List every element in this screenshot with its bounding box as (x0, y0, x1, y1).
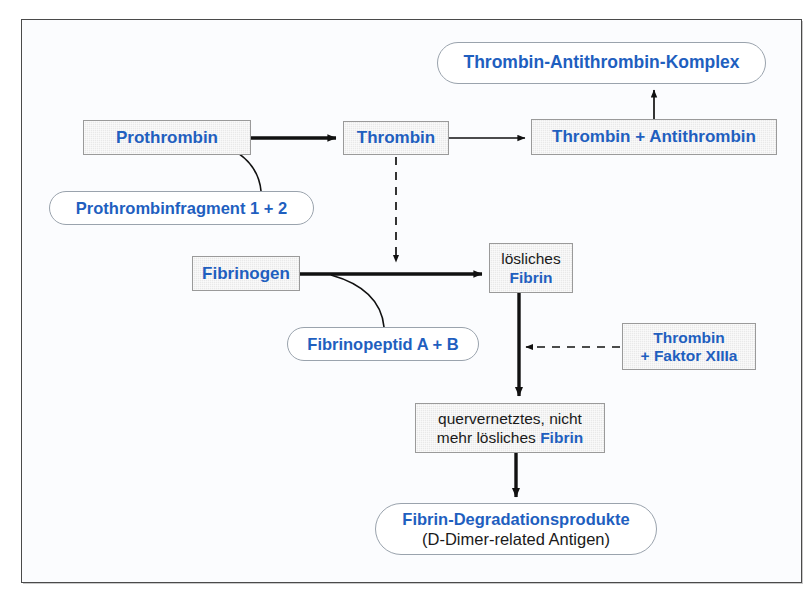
node-thrombin[interactable]: Thrombin (343, 121, 449, 155)
node-fibrinopeptid-label: Fibrinopeptid A + B (307, 335, 458, 353)
node-fdp-line2: (D-Dimer-related Antigen) (422, 530, 610, 548)
node-prothrombinfragment[interactable]: Prothrombinfragment 1 + 2 (49, 191, 314, 225)
diagram-canvas: Prothrombin Thrombin Thrombin + Antithro… (0, 0, 812, 601)
node-tat-komplex-label: Thrombin-Antithrombin-Komplex (463, 53, 739, 73)
node-fibrinogen[interactable]: Fibrinogen (192, 256, 300, 291)
node-thrombin-label: Thrombin (357, 128, 435, 147)
diagram-frame (21, 19, 802, 583)
node-fibrin-degradationsprodukte[interactable]: Fibrin-Degradationsprodukte (D-Dimer-rel… (375, 503, 657, 555)
node-fibrinopeptid[interactable]: Fibrinopeptid A + B (287, 327, 479, 361)
node-quervernetztes-fibrin-line2b: Fibrin (540, 429, 583, 446)
node-thrombin-antithrombin[interactable]: Thrombin + Antithrombin (531, 119, 777, 155)
node-thrombin-antithrombin-label: Thrombin + Antithrombin (552, 127, 756, 146)
node-fdp-line1: Fibrin-Degradationsprodukte (402, 510, 629, 528)
node-thrombin-antithrombin-komplex[interactable]: Thrombin-Antithrombin-Komplex (437, 42, 766, 84)
node-prothrombin-label: Prothrombin (116, 128, 218, 147)
node-prothrombinfragment-label: Prothrombinfragment 1 + 2 (76, 199, 287, 217)
node-loesliches-fibrin-line2: Fibrin (509, 269, 552, 286)
node-thrombin-faktor-xiiia-line2: + Faktor XIIIa (641, 347, 738, 364)
node-thrombin-faktor-xiiia-line1: Thrombin (653, 329, 724, 346)
node-quervernetztes-fibrin-line2: mehr lösliches Fibrin (437, 429, 583, 446)
node-loesliches-fibrin-line1: lösliches (501, 250, 560, 267)
node-loesliches-fibrin[interactable]: lösliches Fibrin (489, 243, 573, 293)
node-quervernetztes-fibrin-line2a: mehr lösliches (437, 429, 540, 446)
node-fibrinogen-label: Fibrinogen (202, 264, 290, 283)
node-thrombin-faktor-xiiia[interactable]: Thrombin + Faktor XIIIa (622, 323, 756, 370)
node-prothrombin[interactable]: Prothrombin (83, 120, 251, 155)
node-quervernetztes-fibrin[interactable]: quervernetztes, nicht mehr lösliches Fib… (415, 403, 605, 453)
node-quervernetztes-fibrin-line1: quervernetztes, nicht (438, 410, 582, 427)
